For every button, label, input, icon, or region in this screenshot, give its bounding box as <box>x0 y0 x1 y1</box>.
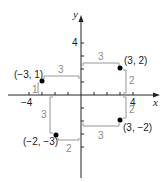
point-label-neg3-1: (−3, 1) <box>14 69 43 80</box>
point-label-3-2: (3, 2) <box>124 55 147 66</box>
x-tick-label-neg4: −4 <box>21 97 33 108</box>
distance-horizontal-3-neg2: 3 <box>98 130 104 141</box>
x-axis-label: x <box>152 96 158 108</box>
y-tick-label-4: 4 <box>72 37 78 48</box>
coordinate-plane: y x −4 4 4 3 2 3 1 3 2 2 3 (3, 2) (−3, 1… <box>0 0 168 182</box>
bracket-point-neg3-1 <box>38 76 79 93</box>
y-axis-arrow-icon <box>79 15 84 22</box>
y-axis-label: y <box>72 8 78 20</box>
distance-vertical-3-2: 2 <box>129 75 135 86</box>
point-3-neg2 <box>118 118 123 123</box>
point-label-3-neg2: (3, −2) <box>123 122 152 133</box>
point-label-neg2-neg3: (−2, −3) <box>23 136 58 147</box>
distance-vertical-neg2-neg3: 3 <box>41 109 47 120</box>
distance-horizontal-3-2: 3 <box>98 51 104 62</box>
distance-horizontal-neg2-neg3: 2 <box>66 143 72 154</box>
distance-horizontal-neg3-1: 3 <box>58 64 64 75</box>
distance-vertical-neg3-1: 1 <box>32 84 38 95</box>
point-3-2 <box>118 66 123 71</box>
distance-vertical-3-neg2: 2 <box>129 104 135 115</box>
